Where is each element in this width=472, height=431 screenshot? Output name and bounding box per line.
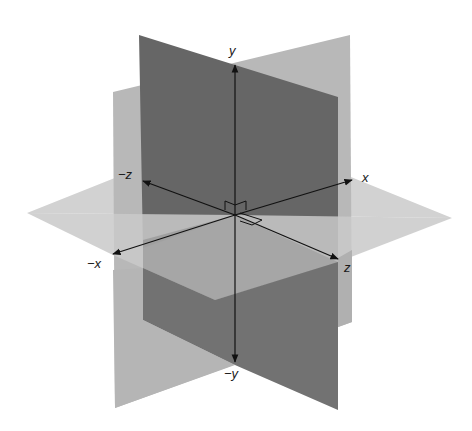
label-neg-x: −x [87,256,102,271]
label-neg-y: −y [224,366,240,381]
label-neg-z: −z [118,167,133,182]
coordinate-planes-diagram: y −y x −x z −z [0,0,472,431]
label-z: z [343,260,351,275]
label-x: x [361,170,369,185]
label-y: y [228,43,237,58]
